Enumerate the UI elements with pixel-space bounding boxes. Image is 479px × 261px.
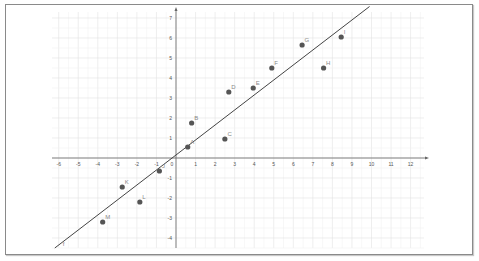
- point-marker[interactable]: [189, 120, 194, 125]
- x-tick-label: 8: [331, 161, 334, 167]
- x-tick-label: -1: [154, 161, 159, 167]
- y-tick-label: 6: [169, 35, 172, 41]
- data-point-l[interactable]: L: [137, 194, 146, 205]
- y-tick-label: 2: [169, 115, 172, 121]
- data-point-b[interactable]: B: [189, 115, 198, 126]
- point-label: H: [326, 60, 330, 66]
- point-label: G: [305, 37, 310, 43]
- x-tick-label: 10: [369, 161, 375, 167]
- x-tick-label: 3: [233, 161, 236, 167]
- y-tick-label: -1: [168, 175, 173, 181]
- scatter-plot[interactable]: -6-5-4-3-2-10123456789101112-4-3-2-11234…: [0, 0, 479, 261]
- x-tick-label: 5: [272, 161, 275, 167]
- x-tick-label: -4: [96, 161, 101, 167]
- x-tick-label: 0: [171, 161, 174, 167]
- point-marker[interactable]: [339, 34, 344, 39]
- x-tick-label: 12: [408, 161, 414, 167]
- data-point-c[interactable]: C: [222, 131, 232, 142]
- x-tick-label: 4: [253, 161, 256, 167]
- x-tick-label: -3: [115, 161, 120, 167]
- x-tick-label: 7: [311, 161, 314, 167]
- y-tick-label: 7: [169, 15, 172, 21]
- point-label: B: [194, 115, 198, 121]
- point-marker[interactable]: [137, 199, 142, 204]
- data-point-f[interactable]: F: [269, 60, 278, 71]
- point-marker[interactable]: [120, 184, 125, 189]
- point-label: M: [105, 214, 110, 220]
- point-label: L: [142, 194, 146, 200]
- point-marker[interactable]: [299, 42, 304, 47]
- point-marker[interactable]: [251, 85, 256, 90]
- y-tick-label: -3: [168, 215, 173, 221]
- y-tick-label: -4: [168, 235, 173, 241]
- y-tick-label: 1: [169, 135, 172, 141]
- x-tick-label: -5: [76, 161, 81, 167]
- point-marker[interactable]: [222, 136, 227, 141]
- x-tick-label: 9: [351, 161, 354, 167]
- x-tick-label: 2: [214, 161, 217, 167]
- point-label: J: [162, 163, 165, 169]
- point-marker[interactable]: [269, 65, 274, 70]
- point-label: D: [231, 84, 236, 90]
- x-tick-label: 1: [194, 161, 197, 167]
- point-marker[interactable]: [100, 219, 105, 224]
- point-label: A: [190, 139, 194, 145]
- y-tick-label: -2: [168, 195, 173, 201]
- y-tick-label: 4: [169, 75, 172, 81]
- point-label: C: [227, 131, 232, 137]
- point-label: F: [274, 60, 278, 66]
- axes: [52, 7, 429, 248]
- x-axis-arrow-icon: [425, 157, 429, 160]
- x-tick-label: -6: [56, 161, 61, 167]
- y-axis-arrow-icon: [175, 7, 178, 11]
- data-point-m[interactable]: M: [100, 214, 110, 225]
- data-point-e[interactable]: E: [251, 80, 260, 91]
- point-label: E: [256, 80, 260, 86]
- y-tick-label: 5: [169, 55, 172, 61]
- point-marker[interactable]: [185, 144, 190, 149]
- x-tick-label: -2: [135, 161, 140, 167]
- point-marker[interactable]: [157, 168, 162, 173]
- y-tick-label: 3: [169, 95, 172, 101]
- point-label: K: [125, 179, 129, 185]
- point-marker[interactable]: [321, 65, 326, 70]
- x-tick-label: 11: [388, 161, 393, 167]
- point-label: I: [344, 29, 346, 35]
- line-label-f: f: [63, 241, 65, 247]
- point-marker[interactable]: [226, 89, 231, 94]
- x-tick-label: 6: [292, 161, 295, 167]
